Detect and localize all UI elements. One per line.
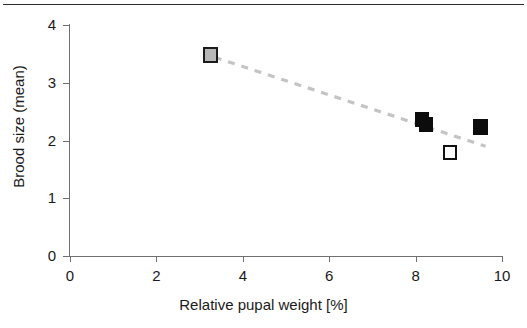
y-axis-tick-3 — [63, 83, 69, 84]
data-point-open-square — [443, 145, 457, 160]
y-axis-line — [69, 24, 70, 257]
x-tick-label-6: 6 — [309, 268, 349, 283]
x-axis-title: Relative pupal weight [%] — [0, 296, 527, 313]
y-axis-tick-1 — [63, 198, 69, 199]
x-tick-label-2: 2 — [136, 268, 176, 283]
x-tick-label-8: 8 — [396, 268, 436, 283]
x-axis-tick-4 — [243, 256, 244, 262]
y-tick-label-2: 2 — [26, 133, 56, 148]
x-tick-label-10: 10 — [482, 268, 522, 283]
x-axis-tick-8 — [416, 256, 417, 262]
x-axis-line — [69, 256, 503, 257]
data-point-black-square-lower — [419, 117, 433, 132]
y-tick-label-1: 1 — [26, 190, 56, 205]
x-axis-tick-0 — [70, 256, 71, 262]
data-point-gray-square — [203, 47, 218, 63]
y-tick-label-0: 0 — [26, 248, 56, 263]
y-axis-tick-4 — [63, 25, 69, 26]
x-axis-tick-2 — [156, 256, 157, 262]
y-axis-title: Brood size (mean) — [10, 7, 27, 247]
y-tick-label-4: 4 — [26, 17, 56, 32]
x-tick-label-0: 0 — [50, 268, 90, 283]
y-tick-label-3: 3 — [26, 75, 56, 90]
y-axis-tick-0 — [63, 256, 69, 257]
figure-top-rule — [3, 4, 524, 5]
x-axis-tick-6 — [329, 256, 330, 262]
x-tick-label-4: 4 — [223, 268, 263, 283]
x-axis-tick-10 — [502, 256, 503, 262]
y-axis-tick-2 — [63, 141, 69, 142]
data-point-black-square-right — [473, 119, 488, 135]
chart-figure: 0 1 2 3 4 0 2 4 6 8 10 Relative pupal we… — [0, 0, 527, 328]
